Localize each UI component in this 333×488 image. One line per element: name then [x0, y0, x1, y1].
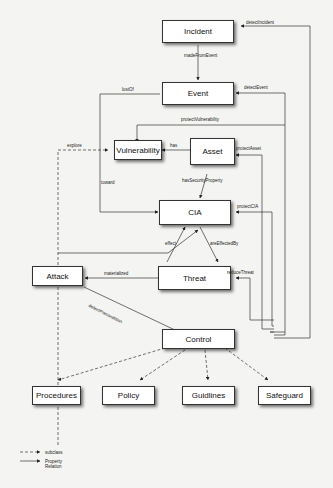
- node-event: Event: [162, 82, 234, 105]
- label-explore: explore: [67, 143, 82, 148]
- node-policy: Policy: [102, 386, 155, 405]
- node-control: Control: [162, 329, 235, 349]
- label-detectevent: detectEvent: [244, 85, 268, 90]
- legend-property-relation: Property Relation: [45, 459, 67, 469]
- node-attack: Attack: [32, 266, 83, 286]
- label-effect: effect: [165, 241, 176, 246]
- node-threat: Threat: [158, 266, 231, 290]
- node-cia: CIA: [159, 200, 231, 225]
- label-areeffectedby: areEffectedBy: [210, 241, 238, 246]
- label-detectincident: detectIncident: [246, 20, 274, 25]
- label-protectvulnerability: protectVulnerability: [181, 117, 219, 122]
- node-asset: Asset: [190, 138, 235, 165]
- node-safeguard: Safeguard: [258, 386, 311, 405]
- label-toward: toward: [101, 180, 115, 185]
- label-madefromevent: madeFromEvent: [184, 53, 217, 58]
- label-hassecurityproperty: hasSecurityProperty: [182, 178, 223, 183]
- label-materialized: materialized: [104, 271, 128, 276]
- node-guidlines: Guidlines: [182, 386, 235, 405]
- label-lostof: lostOf: [122, 87, 134, 92]
- label-protectasset: protectAsset: [236, 146, 261, 151]
- node-incident: Incident: [162, 20, 234, 43]
- label-protectcia: protectCIA: [237, 204, 258, 209]
- legend-subclass: subclass: [45, 450, 63, 455]
- node-vulnerability: Vulnerability: [114, 140, 162, 160]
- node-procedures: Procedures: [32, 386, 81, 405]
- label-has: has: [170, 143, 177, 148]
- label-reducethreat: reduceThreat: [227, 270, 254, 275]
